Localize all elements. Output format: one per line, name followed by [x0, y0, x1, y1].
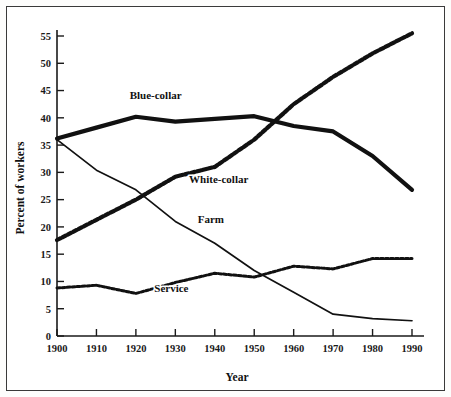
- x-axis-tick-label: 1900: [47, 343, 68, 354]
- x-axis-tick-label: 1930: [165, 343, 186, 354]
- y-axis-tick-label: 35: [41, 140, 52, 151]
- x-axis-title: Year: [226, 371, 249, 383]
- axes-layer: 0510152025303540455055190019101920193019…: [41, 30, 425, 354]
- y-axis-tick-label: 20: [41, 222, 52, 233]
- y-axis-tick-label: 15: [41, 249, 52, 260]
- series-label-service: Service: [154, 282, 188, 294]
- y-axis-tick-label: 10: [41, 276, 52, 287]
- y-axis-tick-label: 55: [41, 31, 52, 42]
- y-axis-tick-label: 50: [41, 58, 52, 69]
- series-label-farm: Farm: [198, 213, 224, 225]
- series-line-white-collar: [57, 33, 412, 240]
- x-axis-tick-label: 1940: [204, 343, 225, 354]
- x-axis-tick-label: 1990: [402, 343, 423, 354]
- x-axis-tick-label: 1920: [125, 343, 146, 354]
- series-label-white-collar: White-collar: [189, 173, 248, 185]
- chart-figure: 0510152025303540455055190019101920193019…: [0, 0, 451, 397]
- y-axis-tick-label: 0: [46, 331, 51, 342]
- occupation-line-chart: 0510152025303540455055190019101920193019…: [0, 0, 451, 397]
- x-axis-tick-label: 1960: [283, 343, 304, 354]
- x-axis-tick-label: 1910: [86, 343, 107, 354]
- series-line-service: [57, 259, 412, 294]
- y-axis-tick-label: 40: [41, 113, 52, 124]
- series-line-farm: [57, 140, 412, 321]
- x-axis-tick-label: 1970: [323, 343, 344, 354]
- y-axis-title: Percent of workers: [14, 141, 26, 235]
- series-label-blue-collar: Blue-collar: [130, 89, 182, 101]
- y-axis-tick-label: 45: [41, 85, 52, 96]
- x-axis-tick-label: 1950: [244, 343, 265, 354]
- y-axis-tick-label: 25: [41, 194, 52, 205]
- y-axis-tick-label: 5: [46, 304, 51, 315]
- y-axis-tick-label: 30: [41, 167, 52, 178]
- x-axis-tick-label: 1980: [362, 343, 383, 354]
